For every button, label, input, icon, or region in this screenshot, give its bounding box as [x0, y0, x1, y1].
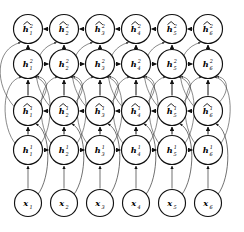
node-label-subscript: 5 [173, 204, 176, 210]
graph-node-hhat1-5[interactable]: h15 [158, 97, 187, 126]
graph-node-x-5[interactable]: x5 [159, 190, 186, 217]
graph-node-hhat2-3[interactable]: h23 [86, 15, 115, 44]
graph-node-x-2[interactable]: x2 [51, 190, 78, 217]
node-label: h [131, 106, 137, 116]
input-connection-layer [28, 166, 208, 189]
graph-node-x-3[interactable]: x3 [87, 190, 114, 217]
node-label: h [59, 106, 65, 116]
node-label: h [131, 145, 137, 155]
node-label: h [167, 106, 173, 116]
graph-node-h1-6[interactable]: h16 [194, 136, 223, 165]
node-label-subscript: 4 [136, 151, 140, 157]
node-label-superscript: 2 [137, 58, 141, 64]
node-label-superscript: 1 [138, 144, 141, 150]
node-label: h [23, 106, 29, 116]
graph-node-h2-2[interactable]: h22 [50, 50, 79, 79]
node-label-subscript: 5 [173, 151, 176, 157]
node-label-subscript: 4 [136, 30, 140, 36]
graph-node-h1-4[interactable]: h14 [122, 136, 151, 165]
node-label-subscript: 4 [136, 112, 140, 118]
node-label-superscript: 1 [174, 105, 177, 111]
node-label: h [23, 145, 29, 155]
node-label-superscript: 1 [30, 105, 33, 111]
graph-node-h2-5[interactable]: h25 [158, 50, 187, 79]
node-label-superscript: 2 [29, 23, 33, 29]
graph-node-hhat1-6[interactable]: h16 [194, 97, 223, 126]
graph-node-h1-2[interactable]: h12 [50, 136, 79, 165]
node-label-superscript: 1 [210, 105, 213, 111]
node-label: x [58, 198, 64, 208]
rnn-diagram: h21h22h23h24h25h26h21h22h23h24h25h26h11h… [0, 0, 244, 232]
node-label-subscript: 1 [29, 65, 32, 71]
graph-node-x-6[interactable]: x6 [195, 190, 222, 217]
node-label-superscript: 1 [66, 144, 69, 150]
node-label-superscript: 2 [65, 23, 69, 29]
node-label-superscript: 1 [102, 144, 105, 150]
node-label-subscript: 1 [29, 112, 32, 118]
node-label-superscript: 2 [173, 58, 177, 64]
node-label: x [202, 198, 208, 208]
node-label-superscript: 1 [138, 105, 141, 111]
node-label-superscript: 2 [137, 23, 141, 29]
node-label-superscript: 1 [174, 144, 177, 150]
node-label: h [131, 24, 137, 34]
graph-node-h2-6[interactable]: h26 [194, 50, 223, 79]
graph-node-h2-3[interactable]: h23 [86, 50, 115, 79]
node-label-superscript: 1 [102, 105, 105, 111]
node-label-subscript: 3 [101, 65, 104, 71]
graph-node-x-1[interactable]: x1 [15, 190, 42, 217]
node-label: x [130, 198, 136, 208]
graph-node-hhat1-2[interactable]: h12 [50, 97, 79, 126]
node-label: h [131, 59, 137, 69]
node-label-subscript: 1 [29, 151, 32, 157]
node-label: h [23, 59, 29, 69]
node-label: h [203, 59, 209, 69]
node-label-subscript: 1 [29, 30, 32, 36]
graph-node-hhat1-1[interactable]: h11 [14, 97, 43, 126]
node-label: h [167, 145, 173, 155]
node-label-superscript: 2 [29, 58, 33, 64]
graph-node-h2-1[interactable]: h21 [14, 50, 43, 79]
node-label: h [95, 59, 101, 69]
node-label: h [59, 145, 65, 155]
node-label: x [22, 198, 28, 208]
node-label-subscript: 3 [101, 151, 104, 157]
node-label-subscript: 2 [64, 30, 68, 36]
node-label: h [167, 24, 173, 34]
node-label-superscript: 2 [173, 23, 177, 29]
node-label-superscript: 1 [66, 105, 69, 111]
node-label: h [95, 106, 101, 116]
node-label-superscript: 1 [30, 144, 33, 150]
graph-node-h1-5[interactable]: h15 [158, 136, 187, 165]
node-label-subscript: 2 [64, 204, 68, 210]
node-label-superscript: 2 [65, 58, 69, 64]
node-label-subscript: 2 [64, 65, 68, 71]
graph-node-hhat1-3[interactable]: h13 [86, 97, 115, 126]
graph-node-hhat2-5[interactable]: h25 [158, 15, 187, 44]
node-label-superscript: 2 [101, 23, 105, 29]
node-label: h [59, 59, 65, 69]
node-label: h [59, 24, 65, 34]
node-label-subscript: 1 [29, 204, 32, 210]
graph-node-hhat2-6[interactable]: h26 [194, 15, 223, 44]
node-label-subscript: 4 [136, 204, 140, 210]
node-label-subscript: 4 [136, 65, 140, 71]
graph-node-hhat1-4[interactable]: h14 [122, 97, 151, 126]
node-label: h [203, 24, 209, 34]
node-label-subscript: 2 [64, 151, 68, 157]
node-label-superscript: 1 [210, 144, 213, 150]
node-label-superscript: 2 [209, 58, 213, 64]
graph-node-x-4[interactable]: x4 [123, 190, 150, 217]
graph-node-hhat2-1[interactable]: h21 [14, 15, 43, 44]
node-label: h [23, 24, 29, 34]
graph-node-hhat2-4[interactable]: h24 [122, 15, 151, 44]
node-label: h [167, 59, 173, 69]
graph-node-h1-1[interactable]: h11 [14, 136, 43, 165]
node-layer: h21h22h23h24h25h26h21h22h23h24h25h26h11h… [14, 15, 223, 217]
graph-node-h1-3[interactable]: h13 [86, 136, 115, 165]
graph-node-hhat2-2[interactable]: h22 [50, 15, 79, 44]
graph-node-h2-4[interactable]: h24 [122, 50, 151, 79]
node-label: h [203, 106, 209, 116]
node-label-subscript: 5 [173, 112, 176, 118]
node-label-superscript: 2 [101, 58, 105, 64]
